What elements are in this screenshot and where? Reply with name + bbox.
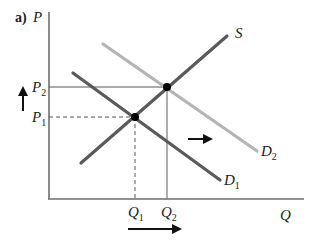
p2-label: P2 <box>31 79 46 98</box>
supply-label: S <box>235 25 243 41</box>
y-axis-label: P <box>32 9 42 25</box>
q1-label: Q1 <box>128 204 144 223</box>
p1-label: P1 <box>31 109 46 128</box>
panel-label: a) <box>15 10 27 26</box>
demand-curve-d2 <box>103 44 257 151</box>
equilibrium-point-1 <box>131 113 139 121</box>
supply-curve-s <box>81 36 227 163</box>
q2-label: Q2 <box>161 204 177 223</box>
demand-d2-label: D2 <box>260 143 277 162</box>
supply-demand-diagram: a) P Q S D1 D2 P2 P1 Q1 Q2 <box>0 0 317 247</box>
demand-curve-d1 <box>73 73 220 180</box>
demand-d1-label: D1 <box>223 172 240 191</box>
equilibrium-point-2 <box>163 83 171 91</box>
x-axis-label: Q <box>280 207 291 223</box>
